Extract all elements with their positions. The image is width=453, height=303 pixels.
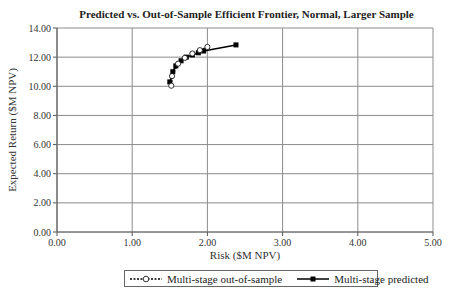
y-tick-label: 2.00 [34, 197, 52, 208]
data-point-out-of-sample [169, 83, 174, 88]
x-tick-label: 0.00 [48, 237, 66, 248]
x-tick-label: 2.00 [199, 237, 217, 248]
y-axis-label: Expected Return ($M NPV) [6, 68, 19, 192]
solid-square-marker-icon [296, 275, 330, 283]
y-tick-label: 6.00 [34, 139, 52, 150]
y-tick-label: 12.00 [29, 52, 52, 63]
x-axis-label: Risk ($M NPV) [210, 249, 281, 262]
data-point-predicted [233, 42, 238, 47]
y-tick-label: 0.00 [34, 227, 52, 238]
data-point-out-of-sample [190, 51, 195, 56]
y-tick-label: 14.00 [29, 23, 52, 34]
y-tick-label: 10.00 [29, 81, 52, 92]
legend-item-out-of-sample: Multi-stage out-of-sample [129, 273, 282, 285]
legend-label-predicted: Multi-stage predicted [334, 273, 428, 285]
x-tick-label: 4.00 [349, 237, 367, 248]
x-tick-label: 3.00 [274, 237, 292, 248]
y-tick-label: 8.00 [34, 110, 52, 121]
data-point-out-of-sample [169, 73, 174, 78]
data-point-out-of-sample [182, 55, 187, 60]
data-point-out-of-sample [175, 61, 180, 66]
legend-item-predicted: Multi-stage predicted [296, 273, 428, 285]
x-tick-label: 5.00 [424, 237, 442, 248]
y-tick-label: 4.00 [34, 168, 52, 179]
data-point-out-of-sample [197, 48, 202, 53]
legend-label-out-of-sample: Multi-stage out-of-sample [167, 273, 282, 285]
x-tick-label: 1.00 [123, 237, 141, 248]
data-point-out-of-sample [205, 44, 210, 49]
dashed-circle-marker-icon [129, 275, 163, 283]
legend: Multi-stage out-of-sample Multi-stage pr… [124, 270, 378, 287]
chart-plot: 0.002.004.006.008.0010.0012.0014.000.001… [0, 0, 453, 303]
